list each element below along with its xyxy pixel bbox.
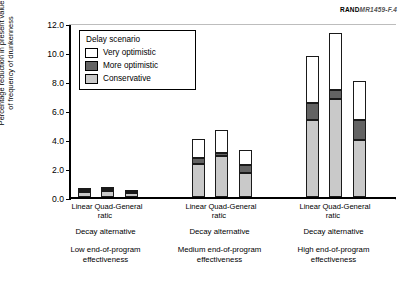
x-axis-label-line1: Linear xyxy=(299,203,320,212)
group-axis-label-2: Decay alternative xyxy=(303,227,363,236)
legend-swatch-very-optimistic xyxy=(85,48,98,58)
group-caption-line2: effectiveness xyxy=(51,255,161,265)
y-axis-tick-label: 8.0 xyxy=(24,78,64,88)
legend-item-very-optimistic: Very optimistic xyxy=(85,47,190,58)
bar-5 xyxy=(239,150,252,197)
group-caption-1: Medium end-of-programeffectiveness xyxy=(165,245,275,264)
rand-logo-text: RAND xyxy=(340,6,360,13)
bar-1 xyxy=(101,188,114,197)
bar-0 xyxy=(78,189,91,197)
bar-segment-conservative xyxy=(306,120,319,197)
y-axis-tick xyxy=(66,170,71,171)
bar-segment-more-optimistic xyxy=(306,103,319,120)
bar-segment-more-optimistic xyxy=(353,120,366,140)
group-caption-2: High end-of-programeffectiveness xyxy=(279,245,389,264)
bar-segment-more-optimistic xyxy=(192,158,205,165)
group-axis-label-0: Decay alternative xyxy=(75,227,135,236)
bar-segment-more-optimistic xyxy=(239,165,252,173)
y-axis-tick xyxy=(66,141,71,142)
group-caption-line2: effectiveness xyxy=(165,255,275,265)
legend-title: Delay scenario xyxy=(85,35,190,44)
y-axis-tick-label: 0.0 xyxy=(24,194,64,204)
bar-segment-very-optimistic xyxy=(215,130,228,152)
x-axis-label-line1: General xyxy=(115,203,142,212)
bar-4 xyxy=(215,130,228,197)
x-axis-label-7: Quad-ratic xyxy=(322,203,343,220)
bar-segment-very-optimistic xyxy=(101,187,114,189)
y-axis-title-container: Percentage reduction in present value of… xyxy=(0,22,24,202)
group-caption-0: Low end-of-programeffectiveness xyxy=(51,245,161,264)
bar-segment-conservative xyxy=(215,156,228,197)
y-axis-tick xyxy=(66,83,71,84)
bar-segment-very-optimistic xyxy=(192,139,205,158)
bar-segment-very-optimistic xyxy=(125,190,138,192)
group-axis-label-1: Decay alternative xyxy=(189,227,249,236)
x-axis-label-1: Quad-ratic xyxy=(94,203,115,220)
x-axis-label-4: Quad-ratic xyxy=(208,203,229,220)
bar-segment-conservative xyxy=(239,173,252,197)
chart-legend: Delay scenario Very optimistic More opti… xyxy=(79,30,196,90)
bar-segment-more-optimistic xyxy=(215,153,228,157)
legend-label-more-optimistic: More optimistic xyxy=(103,61,158,70)
y-axis-tick xyxy=(66,112,71,113)
bar-segment-conservative xyxy=(101,191,114,197)
y-axis-tick-label: 10.0 xyxy=(24,49,64,59)
x-axis-label-line1: Linear xyxy=(185,203,206,212)
bar-6 xyxy=(306,56,319,197)
bar-segment-very-optimistic xyxy=(239,150,252,165)
bar-8 xyxy=(353,81,366,197)
legend-label-very-optimistic: Very optimistic xyxy=(103,48,156,57)
y-axis-tick xyxy=(66,25,71,26)
x-axis-label-2: General xyxy=(115,203,142,212)
figure-canvas: RANDMR1459-F.4 Percentage reduction in p… xyxy=(0,0,403,299)
group-caption-line1: High end-of-program xyxy=(279,245,389,255)
y-axis-title: Percentage reduction in present value of… xyxy=(0,0,19,153)
bar-2 xyxy=(125,191,138,197)
y-axis-tick-label: 2.0 xyxy=(24,165,64,175)
y-axis-tick-label: 4.0 xyxy=(24,136,64,146)
x-axis-label-line2: ratic xyxy=(94,212,115,221)
bar-segment-conservative xyxy=(125,193,138,197)
bar-segment-more-optimistic xyxy=(101,189,114,191)
x-axis-label-3: Linear xyxy=(185,203,206,212)
y-axis-tick-label: 12.0 xyxy=(24,20,64,30)
bar-segment-conservative xyxy=(353,140,366,197)
x-axis-label-line2: ratic xyxy=(322,212,343,221)
bar-segment-more-optimistic xyxy=(78,190,91,192)
bar-segment-very-optimistic xyxy=(353,81,366,120)
bar-segment-conservative xyxy=(78,192,91,197)
bar-segment-conservative xyxy=(192,164,205,197)
bar-7 xyxy=(329,33,342,197)
x-axis-label-6: Linear xyxy=(299,203,320,212)
legend-item-more-optimistic: More optimistic xyxy=(85,60,190,71)
y-axis-tick-label: 6.0 xyxy=(24,107,64,117)
x-axis-label-line1: General xyxy=(229,203,256,212)
bar-segment-conservative xyxy=(329,99,342,197)
bar-3 xyxy=(192,139,205,197)
rand-document-tag: RANDMR1459-F.4 xyxy=(340,6,397,13)
legend-swatch-more-optimistic xyxy=(85,61,98,71)
y-axis-tick xyxy=(66,199,71,200)
group-caption-line2: effectiveness xyxy=(279,255,389,265)
bar-segment-more-optimistic xyxy=(329,90,342,99)
bar-segment-very-optimistic xyxy=(306,56,319,102)
rand-report-number: MR1459-F.4 xyxy=(360,6,397,13)
x-axis-label-line2: ratic xyxy=(208,212,229,221)
group-caption-line1: Low end-of-program xyxy=(51,245,161,255)
x-axis-label-0: Linear xyxy=(71,203,92,212)
x-axis-label-line1: Linear xyxy=(71,203,92,212)
x-axis-label-5: General xyxy=(229,203,256,212)
group-caption-line1: Medium end-of-program xyxy=(165,245,275,255)
legend-label-conservative: Conservative xyxy=(103,74,151,83)
y-axis-tick xyxy=(66,54,71,55)
x-axis-label-line1: General xyxy=(343,203,370,212)
bar-segment-very-optimistic xyxy=(78,188,91,190)
bar-segment-very-optimistic xyxy=(329,33,342,90)
legend-item-conservative: Conservative xyxy=(85,73,190,84)
legend-swatch-conservative xyxy=(85,74,98,84)
y-axis-title-line2: of frequency of drunkenness xyxy=(6,0,15,153)
x-axis-label-8: General xyxy=(343,203,370,212)
